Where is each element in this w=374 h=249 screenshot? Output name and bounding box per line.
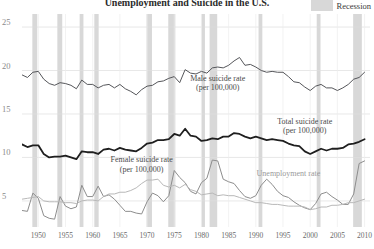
series-label: Female suicide rate(per 100,000)	[111, 155, 173, 173]
series-label-line2: (per 100,000)	[111, 164, 173, 173]
recession-legend-label: Recession	[337, 1, 371, 11]
recession-band	[259, 14, 263, 227]
x-axis-tick-label: 2010	[357, 231, 372, 240]
series-label: Total suicide rate(per 100,000)	[277, 117, 332, 135]
series-label-line2: (per 100,000)	[190, 83, 245, 92]
x-axis-tick-label: 1985	[221, 231, 236, 240]
recession-band	[57, 14, 62, 227]
series-label-line1: Female suicide rate	[111, 155, 173, 164]
x-axis-tick-label: 1955	[58, 231, 73, 240]
series-label-line1: Total suicide rate	[277, 117, 332, 126]
y-axis-tick-label: 25	[2, 17, 11, 27]
x-axis-tick-label: 1950	[31, 231, 46, 240]
x-axis-tick-label: 2005	[330, 231, 345, 240]
chart-legend: Recession	[311, 0, 371, 11]
recession-band	[80, 14, 84, 227]
x-axis-tick-label: 1970	[140, 231, 155, 240]
recession-band	[353, 14, 362, 227]
series-label: Male suicide rate(per 100,000)	[190, 73, 245, 91]
x-axis-tick-label: 1990	[248, 231, 263, 240]
y-axis-tick-label: 15	[2, 104, 11, 114]
recession-band	[94, 14, 98, 227]
y-axis-tick-label: 10	[2, 147, 11, 157]
y-axis-tick-label: 5	[2, 191, 6, 201]
series-label: Unemployment rate	[257, 169, 321, 178]
x-axis-tick-label: 1960	[85, 231, 100, 240]
chart-container: Unemployment and Suicide in the U.S. Rec…	[0, 0, 374, 249]
x-axis-tick-label: 1975	[167, 231, 182, 240]
y-axis-tick-label: 20	[2, 61, 11, 71]
series-label-line1: Male suicide rate	[190, 73, 245, 82]
x-axis-tick-label: 1995	[276, 231, 291, 240]
x-axis-tick-label: 1965	[112, 231, 127, 240]
series-line	[22, 179, 365, 209]
x-axis-tick-label: 2000	[303, 231, 318, 240]
recession-legend-swatch	[311, 0, 333, 11]
x-axis-tick-label: 1980	[194, 231, 209, 240]
series-label-line2: (per 100,000)	[277, 126, 332, 135]
